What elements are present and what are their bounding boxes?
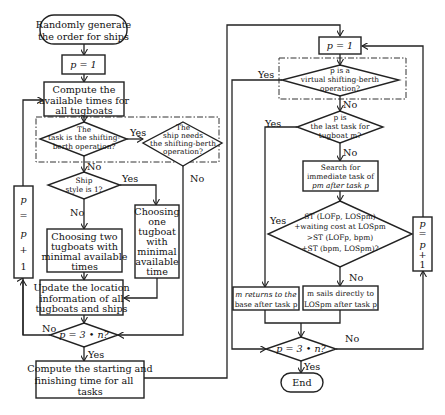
last-task-line-1: p is: [333, 113, 346, 122]
decision-left-loop-end: p = 3 • n?: [50, 323, 118, 347]
inc-right-2: =: [418, 228, 426, 239]
update-location-box: Update the location information of all t…: [33, 280, 129, 315]
no-label-ship-needs: No: [190, 173, 204, 184]
start-terminal: Randomly generate the order for ships: [36, 15, 132, 44]
yes-label-cost: Yes: [269, 215, 286, 226]
compute-times-line-3: tasks: [77, 386, 102, 397]
inc-left-1: p: [20, 194, 26, 205]
yes-label-right-loop: Yes: [303, 361, 320, 372]
end-terminal: End: [281, 373, 323, 392]
last-task-line-2: the last task for: [310, 122, 370, 131]
flowchart-canvas: Randomly generate the order for ships p …: [0, 0, 445, 415]
no-label-cost: No: [349, 272, 363, 283]
increment-p-box-right: p = p + 1: [413, 217, 432, 271]
no-label-style: No: [70, 207, 84, 218]
search-line-2: immediate task of: [307, 172, 375, 181]
init-p-right-label: p = 1: [327, 40, 353, 51]
last-task-line-3: tugboat m?: [319, 131, 361, 140]
inc-left-5: 1: [20, 261, 26, 272]
right-end-condition: p = 3 • n?: [276, 343, 326, 354]
yes-label-style: Yes: [121, 173, 138, 184]
decision-ship-needs-line-4: operation?: [163, 147, 203, 156]
no-label-right-loop: No: [345, 333, 359, 344]
decision-shifting-line-2: task is the shifting-: [48, 133, 120, 142]
start-line-2: the order for ships: [38, 31, 129, 42]
compute-times-line-2: finishing time for all: [35, 375, 134, 386]
virtual-line-2: virtual shifting-berth: [300, 75, 380, 84]
decision-task-shifting-berth: The task is the shifting- berth operatio…: [40, 122, 127, 156]
virtual-line-1: p is a: [330, 66, 351, 75]
end-label: End: [292, 377, 311, 388]
compute-times-line-1: Compute the starting and: [27, 363, 152, 374]
update-line-1: Update the location: [33, 282, 129, 293]
compute-available-line-1: Compute the: [53, 84, 116, 95]
init-p-label: p = 1: [70, 59, 96, 70]
compute-available-box: Compute the available times for all tugb…: [39, 82, 130, 116]
sails-line-2: LOSpm after task p: [304, 300, 377, 309]
cost-line-1: ST (LOFp, LOSpm): [304, 212, 376, 221]
sail-directly-box: m sails directly to LOSpm after task p: [303, 286, 378, 310]
inc-left-2: =: [19, 210, 27, 221]
inc-left-3: p: [20, 228, 26, 239]
no-label-virtual: No: [343, 99, 357, 110]
choose-one-tugboat-box: Choosing one tugboat with minimal availa…: [134, 205, 179, 278]
decision-style-line-1: Ship: [76, 176, 93, 185]
start-line-1: Randomly generate: [36, 19, 132, 30]
decision-ship-style: Ship style is 1?: [48, 172, 120, 199]
sails-line-1: m sails directly to: [307, 289, 374, 298]
cost-line-3: >ST (LOFp, bpm): [307, 233, 373, 242]
yes-label-left-loop: Yes: [87, 349, 104, 360]
update-line-3: tugboats and ships: [36, 303, 128, 314]
left-end-condition: p = 3 • n?: [59, 329, 109, 340]
cost-line-4: +ST (bpm, LOSpm)?: [301, 244, 378, 253]
init-p-box: p = 1: [62, 55, 105, 74]
decision-style-line-2: style is 1?: [65, 185, 102, 194]
compute-available-line-3: all tugboats: [55, 105, 113, 116]
decision-ship-needs-shifting: The ship needs the shifting-berth operat…: [143, 122, 222, 166]
returns-line-1: m returns to the: [235, 290, 297, 299]
decision-cost-comparison: ST (LOFp, LOSpm) +waiting cost at LOSpm …: [268, 201, 412, 267]
compute-start-finish-box: Compute the starting and finishing time …: [27, 361, 152, 398]
choose-two-tugboats-box: Choosing two tugboats with minimal avail…: [42, 229, 128, 272]
search-line-1: Search for: [321, 163, 361, 172]
inc-right-5: 1: [419, 259, 425, 270]
increment-p-box-left: p = p + 1: [14, 186, 33, 278]
search-immediate-task-box: Search for immediate task of pm after ta…: [303, 161, 378, 191]
cost-line-2: +waiting cost at LOSpm: [294, 222, 386, 231]
decision-virtual-shifting: p is a virtual shifting-berth operation?: [282, 65, 399, 96]
returns-line-2: base after task p: [235, 300, 298, 309]
no-label-left-loop: No: [42, 323, 56, 334]
yes-label-virtual: Yes: [257, 69, 274, 80]
decision-last-task: p is the last task for tugboat m?: [297, 111, 383, 143]
choose-two-line-4: times: [71, 261, 98, 272]
search-line-3: pm after task p: [312, 181, 369, 190]
virtual-line-3: operation?: [320, 84, 360, 93]
return-to-base-box: m returns to the base after task p: [233, 287, 299, 310]
inc-left-4: +: [19, 244, 27, 255]
no-label-last-task: No: [343, 147, 357, 158]
choose-one-line-7: time: [146, 266, 168, 277]
decision-right-loop-end: p = 3 • n?: [266, 337, 336, 361]
no-label-shifting: No: [87, 161, 101, 172]
yes-label-shifting: Yes: [129, 127, 146, 138]
init-p-box-right: p = 1: [319, 37, 361, 54]
decision-shifting-line-3: berth operation?: [53, 142, 116, 151]
